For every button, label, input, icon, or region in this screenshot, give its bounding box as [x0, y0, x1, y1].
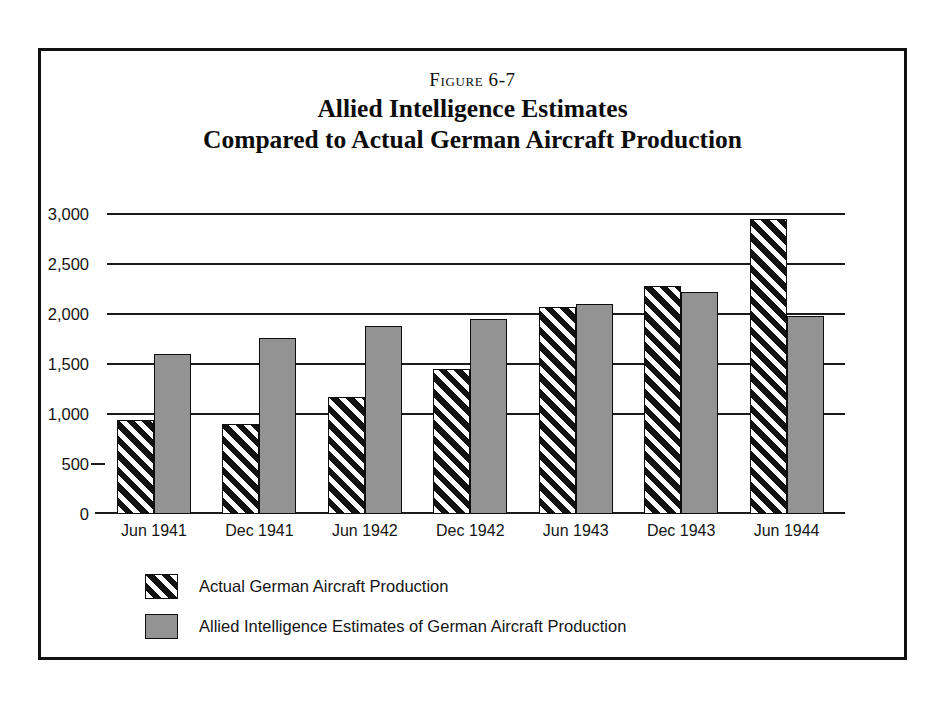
chart-plot-area: 05001,0001,5002,0002,5003,000 Jun 1941De… [107, 214, 845, 514]
legend-label-actual: Actual German Aircraft Production [199, 577, 448, 596]
x-axis-label: Dec 1941 [209, 522, 309, 540]
bar-actual [644, 286, 681, 514]
legend-item-actual: Actual German Aircraft Production [145, 571, 626, 602]
bar-estimate [576, 304, 613, 514]
bar-estimate [365, 326, 402, 514]
y-axis-label-1500: 1,500 [48, 355, 89, 374]
legend-swatch-estimate-icon [145, 614, 178, 639]
y-axis-label-2000: 2,000 [48, 305, 89, 324]
figure-frame: Figure 6-7 Allied Intelligence Estimates… [38, 48, 907, 660]
figure-number: Figure 6-7 [41, 69, 904, 91]
x-axis-label: Jun 1943 [526, 522, 626, 540]
y-axis-label-0: 0 [80, 505, 89, 524]
bar-group: Jun 1941 [107, 214, 212, 514]
y-axis-label-1000: 1,000 [48, 405, 89, 424]
y-axis-label-500: 500 [61, 455, 89, 474]
y-tick-500 [91, 463, 105, 465]
bar-estimate [259, 338, 296, 514]
figure-title: Allied Intelligence Estimates Compared t… [41, 93, 904, 155]
bar-actual [117, 420, 154, 514]
bar-estimate [470, 319, 507, 514]
legend-swatch-actual-icon [145, 574, 178, 599]
x-axis-label: Jun 1944 [737, 522, 837, 540]
bar-group: Dec 1943 [634, 214, 739, 514]
bar-group: Jun 1944 [740, 214, 845, 514]
y-axis-label-2500: 2,500 [48, 255, 89, 274]
bar-actual [750, 219, 787, 514]
bar-estimate [787, 316, 824, 514]
bar-estimate [154, 354, 191, 514]
figure-title-line2: Compared to Actual German Aircraft Produ… [41, 124, 904, 155]
legend-item-estimate: Allied Intelligence Estimates of German … [145, 611, 626, 642]
chart-legend: Actual German Aircraft Production Allied… [145, 571, 626, 651]
x-axis-label: Jun 1941 [104, 522, 204, 540]
bar-group: Jun 1942 [318, 214, 423, 514]
x-axis-label: Jun 1942 [315, 522, 415, 540]
bars-group: Jun 1941Dec 1941Jun 1942Dec 1942Jun 1943… [107, 214, 845, 514]
x-axis-label: Dec 1943 [631, 522, 731, 540]
bar-actual [539, 307, 576, 514]
y-axis-label-3000: 3,000 [48, 205, 89, 224]
bar-group: Dec 1941 [212, 214, 317, 514]
bar-actual [328, 397, 365, 514]
figure-title-line1: Allied Intelligence Estimates [317, 94, 627, 123]
bar-group: Dec 1942 [423, 214, 528, 514]
bar-estimate [681, 292, 718, 514]
x-axis-label: Dec 1942 [420, 522, 520, 540]
legend-label-estimate: Allied Intelligence Estimates of German … [199, 617, 626, 636]
bar-actual [433, 369, 470, 514]
bar-actual [222, 424, 259, 514]
bar-group: Jun 1943 [529, 214, 634, 514]
